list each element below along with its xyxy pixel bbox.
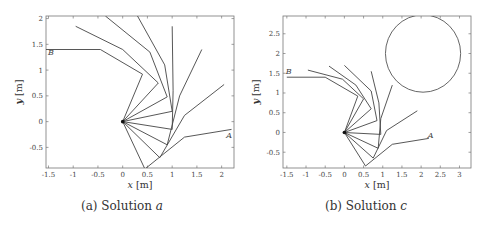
- base-joint-marker: [121, 120, 125, 124]
- x-tick-label: -0.5: [318, 171, 332, 179]
- y-tick-label: 0.5: [269, 109, 280, 117]
- x-tick-label: 2: [219, 171, 223, 179]
- manipulator-configuration: [46, 50, 143, 122]
- x-tick-label: 0.5: [142, 171, 153, 179]
- y-axis-label: y [m]: [13, 80, 24, 106]
- manipulator-configuration: [123, 50, 202, 145]
- plot-area: [46, 16, 232, 169]
- manipulator-configuration: [287, 77, 358, 132]
- x-tick-label: 2.5: [435, 171, 446, 179]
- plot-c: -1.5-1-0.500.511.522.53-0.500.511.522.5x…: [244, 0, 488, 195]
- x-tick-label: -1.5: [280, 171, 294, 179]
- x-tick-label: 0: [342, 171, 346, 179]
- x-tick-label: 1.5: [396, 171, 407, 179]
- caption-c-prefix: (b) Solution: [325, 199, 400, 213]
- x-tick-label: 1.5: [191, 171, 202, 179]
- plot-a: -1.5-1-0.500.511.52-0.500.511.52x [m]y […: [0, 0, 244, 195]
- base-joint-marker: [343, 131, 347, 135]
- x-tick-label: 0.5: [358, 171, 369, 179]
- y-tick-label: 2: [276, 50, 280, 58]
- x-tick-label: -1: [70, 171, 77, 179]
- x-tick-label: 2: [419, 171, 423, 179]
- y-tick-label: 2: [39, 15, 43, 23]
- x-tick-label: -0.5: [91, 171, 105, 179]
- end-point-label: B: [285, 67, 292, 76]
- caption-a-variable: a: [156, 199, 163, 213]
- x-tick-label: 1: [381, 171, 385, 179]
- y-tick-label: 1: [39, 67, 43, 75]
- plot-frame: [283, 16, 471, 168]
- x-tick-label: -1: [303, 171, 310, 179]
- x-tick-label: 0: [120, 171, 124, 179]
- figure-panel-c: -1.5-1-0.500.511.522.53-0.500.511.522.5x…: [244, 0, 488, 228]
- x-axis-label: x [m]: [128, 179, 153, 190]
- x-tick-label: 3: [457, 171, 461, 179]
- x-tick-label: -1.5: [42, 171, 56, 179]
- y-tick-label: 0.5: [32, 92, 43, 100]
- x-tick-label: 1: [170, 171, 174, 179]
- caption-a: (a) Solution a: [0, 199, 244, 213]
- plot-area: [287, 15, 461, 166]
- y-tick-label: -0.5: [267, 149, 281, 157]
- y-tick-label: 1.5: [269, 70, 280, 78]
- caption-c: (b) Solution c: [244, 199, 488, 213]
- obstacle-circle: [385, 15, 460, 92]
- manipulator-configuration: [344, 133, 428, 167]
- y-tick-label: -0.5: [30, 144, 44, 152]
- figure-panel-a: -1.5-1-0.500.511.52-0.500.511.52x [m]y […: [0, 0, 244, 228]
- start-point-label: A: [225, 131, 232, 140]
- y-tick-label: 1.5: [32, 41, 43, 49]
- start-point-label: A: [427, 131, 434, 140]
- manipulator-configuration: [76, 26, 159, 121]
- y-tick-label: 1: [276, 89, 280, 97]
- x-axis-label: x [m]: [365, 179, 390, 190]
- y-tick-label: 2.5: [269, 30, 280, 38]
- plot-frame: [46, 16, 234, 168]
- y-tick-label: 0: [276, 129, 280, 137]
- manipulator-configuration: [105, 16, 167, 122]
- caption-a-prefix: (a) Solution: [81, 199, 156, 213]
- y-tick-label: 0: [39, 118, 43, 126]
- caption-c-variable: c: [400, 199, 407, 213]
- end-point-label: B: [47, 48, 54, 57]
- manipulator-configuration: [123, 16, 173, 122]
- y-axis-label: y [m]: [250, 80, 261, 106]
